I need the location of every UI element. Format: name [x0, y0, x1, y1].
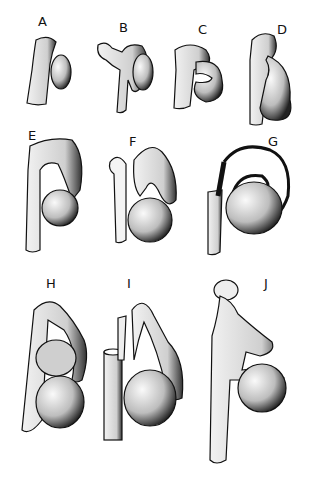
panel-label-j: J	[264, 276, 268, 291]
panel-f-drawing	[110, 148, 177, 243]
panel-label-g: G	[268, 134, 278, 149]
panel-label-h: H	[46, 276, 56, 291]
panel-c-drawing	[174, 45, 223, 109]
panel-b-drawing	[98, 43, 153, 113]
panel-label-c: C	[198, 22, 207, 37]
panel-j-drawing	[210, 280, 286, 463]
panel-h-drawing	[22, 302, 87, 432]
panel-d-drawing	[250, 34, 291, 125]
panel-label-a: A	[38, 14, 47, 29]
illustration-canvas	[0, 0, 310, 485]
panel-label-e: E	[28, 128, 36, 143]
panel-label-d: D	[277, 22, 287, 37]
panel-label-i: I	[127, 276, 131, 291]
panel-label-f: F	[129, 134, 136, 149]
panel-i-drawing	[104, 303, 183, 440]
panel-a-drawing	[27, 37, 71, 104]
panel-label-b: B	[119, 20, 128, 35]
panel-g-drawing	[208, 147, 289, 255]
panel-e-drawing	[26, 139, 82, 252]
